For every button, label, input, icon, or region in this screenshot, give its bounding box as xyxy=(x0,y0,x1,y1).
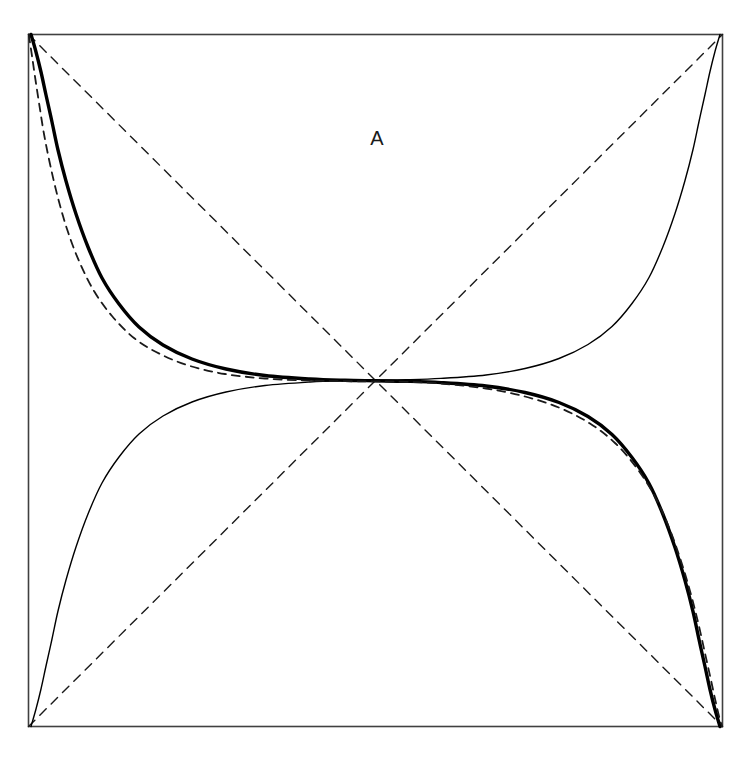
figure-root: A xyxy=(0,0,751,758)
geometry-diagram-canvas: A xyxy=(0,0,751,758)
label-a: A xyxy=(370,127,384,149)
figure-background xyxy=(0,0,751,758)
